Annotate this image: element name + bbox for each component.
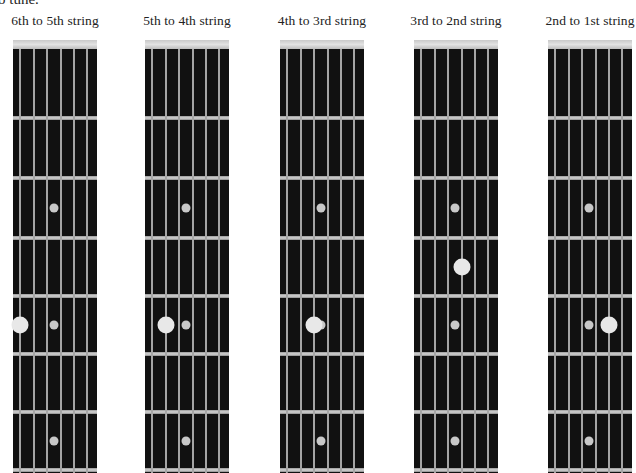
- fret-wire: [548, 468, 632, 472]
- nut: [548, 40, 632, 49]
- fret-wire: [145, 236, 229, 240]
- guitar-string: [353, 49, 355, 473]
- fretboard-diagram: 6th to 5th string: [0, 0, 110, 473]
- nut: [414, 40, 498, 49]
- guitar-string: [581, 49, 583, 473]
- finger-position-dot: [12, 317, 29, 334]
- guitar-string: [286, 49, 288, 473]
- diagram-title: 3rd to 2nd string: [401, 13, 511, 29]
- fretboard-diagram: 3rd to 2nd string: [401, 0, 511, 473]
- diagram-title: 2nd to 1st string: [535, 13, 636, 29]
- guitar-string: [474, 49, 476, 473]
- guitar-string: [73, 49, 75, 473]
- guitar-string: [151, 49, 153, 473]
- fret-inlay-dot: [585, 321, 594, 330]
- fret-wire: [414, 236, 498, 240]
- fretboard: [414, 40, 498, 473]
- diagram-title: 6th to 5th string: [0, 13, 110, 29]
- fret-wire: [13, 468, 97, 472]
- fret-wire: [13, 116, 97, 120]
- fret-wire: [280, 352, 364, 356]
- fret-inlay-dot: [451, 204, 460, 213]
- fret-wire: [13, 410, 97, 414]
- finger-position-dot: [158, 317, 175, 334]
- fret-inlay-dot: [182, 437, 191, 446]
- fretboard-diagram: 5th to 4th string: [132, 0, 242, 473]
- fret-wire: [548, 410, 632, 414]
- guitar-string: [46, 49, 48, 473]
- nut: [145, 40, 229, 49]
- fret-inlay-dot: [50, 204, 59, 213]
- guitar-string: [487, 49, 489, 473]
- fret-wire: [13, 294, 97, 298]
- fret-inlay-dot: [182, 204, 191, 213]
- fretboard: [13, 40, 97, 473]
- fret-inlay-dot: [317, 204, 326, 213]
- guitar-string: [608, 49, 610, 473]
- guitar-string: [621, 49, 623, 473]
- fret-inlay-dot: [50, 437, 59, 446]
- guitar-string: [300, 49, 302, 473]
- guitar-string: [554, 49, 556, 473]
- fret-wire: [548, 352, 632, 356]
- guitar-string: [19, 49, 21, 473]
- fret-wire: [280, 410, 364, 414]
- fret-wire: [145, 116, 229, 120]
- fret-wire: [414, 352, 498, 356]
- fret-wire: [414, 116, 498, 120]
- fret-wire: [145, 410, 229, 414]
- nut: [13, 40, 97, 49]
- fret-wire: [414, 410, 498, 414]
- fret-wire: [280, 236, 364, 240]
- guitar-string: [192, 49, 194, 473]
- fret-wire: [280, 468, 364, 472]
- fret-inlay-dot: [50, 321, 59, 330]
- diagram-title: 5th to 4th string: [132, 13, 242, 29]
- guitar-string: [218, 49, 220, 473]
- fret-inlay-dot: [585, 437, 594, 446]
- fret-wire: [13, 352, 97, 356]
- fretboard-diagram: 4th to 3rd string: [267, 0, 377, 473]
- fret-wire: [548, 116, 632, 120]
- guitar-string: [434, 49, 436, 473]
- guitar-string: [313, 49, 315, 473]
- guitar-string: [205, 49, 207, 473]
- guitar-string: [340, 49, 342, 473]
- fret-wire: [548, 294, 632, 298]
- nut: [280, 40, 364, 49]
- fret-wire: [548, 176, 632, 180]
- fret-wire: [13, 236, 97, 240]
- guitar-string: [60, 49, 62, 473]
- fretboard: [280, 40, 364, 473]
- fret-inlay-dot: [317, 437, 326, 446]
- fret-wire: [414, 176, 498, 180]
- fret-inlay-dot: [585, 204, 594, 213]
- fret-inlay-dot: [182, 321, 191, 330]
- fret-wire: [414, 294, 498, 298]
- fret-wire: [13, 176, 97, 180]
- fret-wire: [145, 294, 229, 298]
- fretboard: [548, 40, 632, 473]
- fret-wire: [548, 236, 632, 240]
- guitar-string: [568, 49, 570, 473]
- finger-position-dot: [454, 259, 471, 276]
- guitar-string: [327, 49, 329, 473]
- guitar-string: [86, 49, 88, 473]
- fret-wire: [280, 294, 364, 298]
- fret-wire: [414, 468, 498, 472]
- guitar-string: [165, 49, 167, 473]
- fretboard-diagram: 2nd to 1st string: [535, 0, 636, 473]
- guitar-string: [33, 49, 35, 473]
- fret-inlay-dot: [451, 437, 460, 446]
- guitar-string: [595, 49, 597, 473]
- fret-wire: [145, 176, 229, 180]
- finger-position-dot: [601, 317, 618, 334]
- fret-inlay-dot: [451, 321, 460, 330]
- guitar-string: [447, 49, 449, 473]
- finger-position-dot: [306, 317, 323, 334]
- guitar-string: [420, 49, 422, 473]
- diagram-title: 4th to 3rd string: [267, 13, 377, 29]
- fret-wire: [145, 352, 229, 356]
- fret-wire: [280, 116, 364, 120]
- fretboard: [145, 40, 229, 473]
